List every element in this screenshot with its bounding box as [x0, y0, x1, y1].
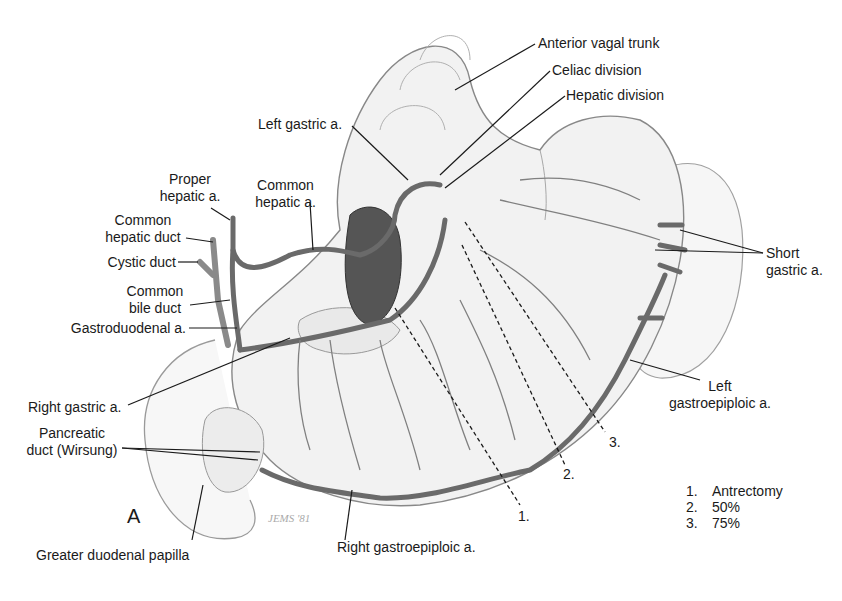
- label-left-gastric-a: Left gastric a.: [258, 116, 342, 133]
- panel-letter: A: [127, 508, 140, 525]
- label-common-hepatic-duct: Common hepatic duct: [98, 212, 188, 246]
- legend-number: 3.: [686, 515, 712, 531]
- label-line: Short: [766, 245, 823, 262]
- label-line: Common: [98, 212, 188, 229]
- pancreas-head: [202, 408, 263, 493]
- label-common-hepatic-a: Common hepatic a.: [248, 177, 323, 211]
- legend-item: 3. 75%: [686, 515, 783, 531]
- label-short-gastric-a: Short gastric a.: [766, 245, 823, 279]
- label-common-bile-duct: Common bile duct: [120, 283, 190, 317]
- resection-legend: 1. Antrectomy 2. 50% 3. 75%: [686, 483, 783, 531]
- signature: JEMS '81: [268, 512, 310, 524]
- legend-number: 1.: [686, 483, 712, 499]
- label-cystic-duct: Cystic duct: [80, 254, 176, 271]
- label-gastroduodenal-a: Gastroduodenal a.: [40, 320, 186, 337]
- label-celiac-division: Celiac division: [552, 62, 641, 79]
- label-line: hepatic duct: [98, 229, 188, 246]
- label-right-gastric-a: Right gastric a.: [28, 399, 121, 416]
- label-line: gastric a.: [766, 262, 823, 279]
- label-right-gastroepiploic-a: Right gastroepiploic a.: [337, 539, 476, 556]
- label-line: duct (Wirsung): [22, 442, 122, 459]
- legend-item: 2. 50%: [686, 499, 783, 515]
- label-line: Common: [248, 177, 323, 194]
- label-line: Common: [120, 283, 190, 300]
- label-line: hepatic a.: [248, 194, 323, 211]
- legend-text: Antrectomy: [712, 483, 783, 499]
- resection-marker-2: 2.: [563, 466, 575, 483]
- label-pancreatic-duct: Pancreatic duct (Wirsung): [22, 425, 122, 459]
- legend-item: 1. Antrectomy: [686, 483, 783, 499]
- label-hepatic-division: Hepatic division: [566, 87, 664, 104]
- label-left-gastroepiploic-a: Left gastroepiploic a.: [660, 378, 780, 412]
- label-line: hepatic a.: [150, 188, 230, 205]
- anatomy-illustration: JEMS '81 Anterior vagal trunk Celiac div…: [0, 0, 842, 601]
- resection-marker-3: 3.: [609, 434, 621, 451]
- resection-marker-1: 1.: [518, 508, 530, 525]
- label-greater-duodenal-papilla: Greater duodenal papilla: [36, 547, 189, 564]
- label-line: Proper: [150, 171, 230, 188]
- legend-number: 2.: [686, 499, 712, 515]
- label-line: Left: [660, 378, 780, 395]
- bile-ducts: [200, 240, 228, 345]
- legend-text: 75%: [712, 515, 740, 531]
- legend-text: 50%: [712, 499, 740, 515]
- label-proper-hepatic-a: Proper hepatic a.: [150, 171, 230, 205]
- label-anterior-vagal-trunk: Anterior vagal trunk: [538, 35, 659, 52]
- label-line: Pancreatic: [22, 425, 122, 442]
- label-line: gastroepiploic a.: [660, 395, 780, 412]
- label-line: bile duct: [120, 300, 190, 317]
